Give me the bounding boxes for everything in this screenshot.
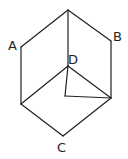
edge-bottom-to-lower-left xyxy=(21,104,63,136)
edge-lower-right-to-bottom xyxy=(63,98,111,136)
label-b: B xyxy=(113,29,122,44)
edge-d-to-lower-right xyxy=(68,66,111,98)
edge-upper-left-to-top xyxy=(21,10,68,47)
geometry-diagram: A B C D xyxy=(0,0,128,159)
edge-top-to-upper-right xyxy=(68,10,111,41)
edge-inner-point-to-lower-right xyxy=(65,96,111,98)
label-a: A xyxy=(8,38,17,53)
edge-d-to-inner-point xyxy=(65,66,68,96)
edge-d-to-lower-left xyxy=(21,66,68,104)
label-d: D xyxy=(68,52,78,67)
label-c: C xyxy=(57,140,66,155)
